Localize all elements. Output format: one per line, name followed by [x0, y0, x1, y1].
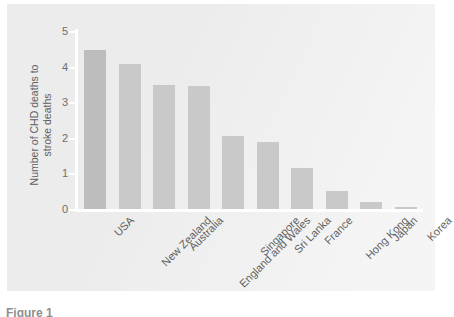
y-tick-label: 1 — [62, 167, 68, 179]
y-tick-mark — [69, 173, 75, 175]
x-axis-line — [75, 209, 423, 212]
x-tick-label: USA — [112, 214, 136, 238]
bar[interactable] — [291, 168, 313, 209]
y-tick-mark — [69, 31, 75, 33]
y-tick-mark — [69, 102, 75, 104]
y-tick-label: 4 — [62, 61, 68, 73]
y-axis-label-line-2: stroke deaths — [41, 50, 54, 200]
y-tick-mark — [69, 138, 75, 140]
y-tick-mark — [69, 67, 75, 69]
x-tick-label: Japan — [390, 214, 420, 244]
bar[interactable] — [153, 85, 175, 209]
bar[interactable] — [395, 207, 417, 209]
y-tick-mark — [69, 209, 75, 211]
y-tick-label: 0 — [62, 203, 68, 215]
y-axis-label: Number of CHD deaths to stroke deaths — [28, 50, 54, 200]
x-tick-label-text: USA — [112, 214, 136, 238]
bar[interactable] — [326, 191, 348, 209]
x-axis-tick-labels: USANew ZealandAustraliaEngland and Wales… — [78, 214, 423, 284]
y-tick-label: 2 — [62, 132, 68, 144]
x-tick-label-text: Japan — [390, 214, 420, 244]
y-tick-label: 5 — [62, 25, 68, 37]
plot-area: 012345 — [78, 31, 423, 209]
bar[interactable] — [257, 142, 279, 209]
figure-caption: Figure 1 — [6, 306, 446, 317]
y-axis-label-line-1: Number of CHD deaths to — [28, 50, 41, 200]
bar[interactable] — [119, 64, 141, 209]
bar[interactable] — [84, 50, 106, 209]
bar[interactable] — [222, 136, 244, 209]
bar-series — [78, 31, 423, 209]
y-tick-label: 3 — [62, 96, 68, 108]
bar[interactable] — [360, 202, 382, 209]
bar[interactable] — [188, 86, 210, 209]
